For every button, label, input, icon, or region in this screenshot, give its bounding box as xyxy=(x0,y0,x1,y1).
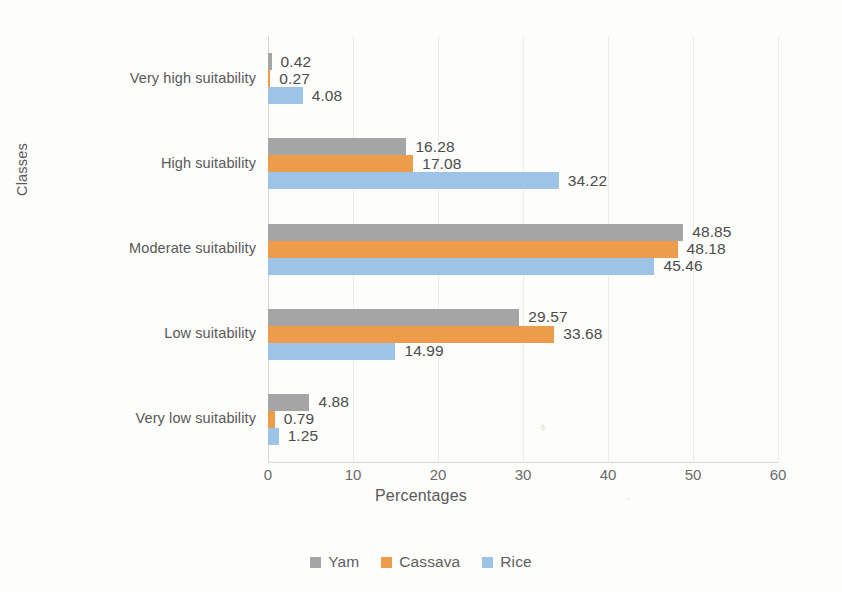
legend-item-rice[interactable]: Rice xyxy=(482,553,531,571)
bar-group: 16.2817.0834.22 xyxy=(268,138,778,189)
legend-label: Yam xyxy=(328,553,359,571)
category-label: High suitability xyxy=(6,155,256,171)
bar-value-label: 48.18 xyxy=(687,240,726,258)
bar-cassava xyxy=(268,70,270,87)
bar-cassava xyxy=(268,155,413,172)
bar-rice xyxy=(268,343,395,360)
bar-chart: Classes Very high suitabilityHigh suitab… xyxy=(0,0,842,592)
category-label: Very high suitability xyxy=(6,70,256,86)
x-tick-label: 50 xyxy=(685,466,702,483)
bar-cassava xyxy=(268,241,678,258)
bar-value-label: 1.25 xyxy=(288,427,319,445)
bar-group: 29.5733.6814.99 xyxy=(268,309,778,360)
bar-group: 4.880.791.25 xyxy=(268,394,778,445)
bar-rice xyxy=(268,428,279,445)
bar-group: 0.420.274.08 xyxy=(268,53,778,104)
bar-row: 0.42 xyxy=(268,53,778,70)
legend-label: Cassava xyxy=(399,553,460,571)
bar-row: 29.57 xyxy=(268,309,778,326)
x-tick-label: 60 xyxy=(770,466,787,483)
plot-area: 0.420.274.0816.2817.0834.2248.8548.1845.… xyxy=(268,36,778,462)
bar-row: 0.79 xyxy=(268,411,778,428)
bar-value-label: 17.08 xyxy=(422,155,461,173)
bar-yam xyxy=(268,53,272,70)
bar-yam xyxy=(268,138,406,155)
bar-value-label: 16.28 xyxy=(415,138,454,156)
x-tick-label: 0 xyxy=(264,466,272,483)
bar-yam xyxy=(268,224,683,241)
category-label: Very low suitability xyxy=(6,410,256,426)
bar-row: 17.08 xyxy=(268,155,778,172)
legend-swatch-icon xyxy=(381,557,392,568)
bar-row: 4.08 xyxy=(268,87,778,104)
bar-value-label: 45.46 xyxy=(663,257,702,275)
x-tick-label: 40 xyxy=(600,466,617,483)
bar-value-label: 4.88 xyxy=(318,393,349,411)
legend-item-yam[interactable]: Yam xyxy=(310,553,359,571)
bar-row: 45.46 xyxy=(268,258,778,275)
legend-label: Rice xyxy=(500,553,531,571)
bar-row: 48.85 xyxy=(268,224,778,241)
x-tick-label: 30 xyxy=(515,466,532,483)
x-tick-label: 10 xyxy=(345,466,362,483)
bar-value-label: 48.85 xyxy=(692,223,731,241)
bar-rice xyxy=(268,87,303,104)
category-label: Low suitability xyxy=(6,325,256,341)
x-tick-label: 20 xyxy=(430,466,447,483)
bar-row: 4.88 xyxy=(268,394,778,411)
bar-value-label: 29.57 xyxy=(528,308,567,326)
bar-rice xyxy=(268,258,654,275)
x-axis-line xyxy=(268,462,778,463)
bar-value-label: 0.42 xyxy=(281,53,312,71)
bar-rice xyxy=(268,172,559,189)
bar-cassava xyxy=(268,326,554,343)
bar-cassava xyxy=(268,411,275,428)
bar-value-label: 14.99 xyxy=(404,342,443,360)
chart-legend: YamCassavaRice xyxy=(0,553,842,571)
bar-row: 16.28 xyxy=(268,138,778,155)
legend-swatch-icon xyxy=(482,557,493,568)
gridline xyxy=(778,36,779,462)
bar-value-label: 4.08 xyxy=(312,87,343,105)
bar-value-label: 0.79 xyxy=(284,410,315,428)
bar-row: 1.25 xyxy=(268,428,778,445)
legend-item-cassava[interactable]: Cassava xyxy=(381,553,460,571)
bar-group: 48.8548.1845.46 xyxy=(268,224,778,275)
y-axis-category-labels: Very high suitabilityHigh suitabilityMod… xyxy=(0,36,256,462)
x-axis-title: Percentages xyxy=(0,487,842,505)
bar-row: 48.18 xyxy=(268,241,778,258)
bar-row: 14.99 xyxy=(268,343,778,360)
bar-value-label: 34.22 xyxy=(568,172,607,190)
category-label: Moderate suitability xyxy=(6,240,256,256)
bar-yam xyxy=(268,309,519,326)
bar-yam xyxy=(268,394,309,411)
bar-value-label: 33.68 xyxy=(563,325,602,343)
bar-row: 34.22 xyxy=(268,172,778,189)
bar-row: 33.68 xyxy=(268,326,778,343)
legend-swatch-icon xyxy=(310,557,321,568)
bar-row: 0.27 xyxy=(268,70,778,87)
bar-value-label: 0.27 xyxy=(279,70,310,88)
